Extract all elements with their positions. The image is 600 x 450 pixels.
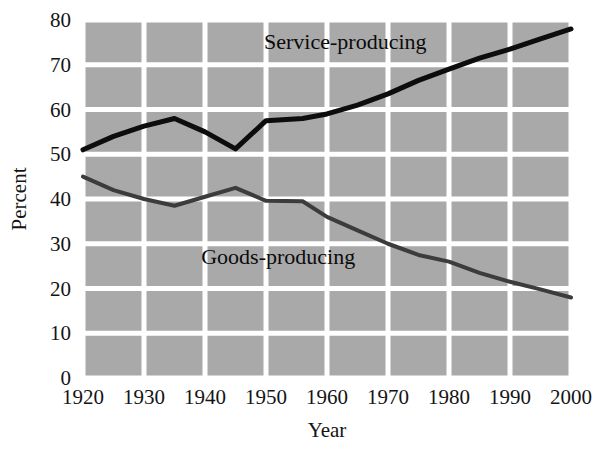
x-axis-tick-labels: 192019301940195019601970198019902000 xyxy=(62,385,592,409)
x-axis-tick-label: 1950 xyxy=(245,385,287,409)
y-axis-tick-label: 40 xyxy=(50,187,71,211)
y-axis-tick-label: 60 xyxy=(50,98,71,122)
x-axis-tick-label: 1960 xyxy=(306,385,348,409)
y-axis-tick-labels: 01020304050607080 xyxy=(50,8,71,390)
x-axis-tick-label: 1920 xyxy=(62,385,104,409)
y-axis-tick-label: 70 xyxy=(50,53,71,77)
x-axis-tick-label: 1980 xyxy=(428,385,470,409)
x-axis-tick-label: 1930 xyxy=(123,385,165,409)
x-axis-tick-label: 1940 xyxy=(184,385,226,409)
y-axis-tick-label: 20 xyxy=(50,277,71,301)
y-axis-tick-label: 50 xyxy=(50,142,71,166)
y-axis-title: Percent xyxy=(7,167,31,230)
x-axis-tick-label: 1990 xyxy=(489,385,531,409)
series-annotation-label: Goods-producing xyxy=(201,244,355,269)
x-axis-title: Year xyxy=(308,418,347,442)
employment-share-line-chart: 01020304050607080 1920193019401950196019… xyxy=(0,0,600,450)
x-axis-tick-label: 2000 xyxy=(550,385,592,409)
y-axis-tick-label: 30 xyxy=(50,232,71,256)
y-axis-tick-label: 10 xyxy=(50,321,71,345)
series-annotation-label: Service-producing xyxy=(264,29,427,54)
chart-canvas: 01020304050607080 1920193019401950196019… xyxy=(0,0,600,450)
x-axis-tick-label: 1970 xyxy=(367,385,409,409)
y-axis-tick-label: 80 xyxy=(50,8,71,32)
